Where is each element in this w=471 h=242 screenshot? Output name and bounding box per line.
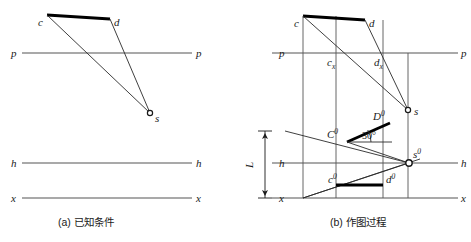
panel-a-label-s: s [155,112,159,124]
panel-b-ray-x-corner-to-s [303,159,420,198]
panel-a-label-p-right: p [195,47,202,59]
panel-b-segment-cd [303,16,365,20]
panel-b-label-dx-sub: x [379,62,384,71]
panel-b-point-s0 [406,160,412,166]
panel-b-caption: (b) 作图过程 [330,214,386,229]
panel-b-label-p-left: p [278,47,285,59]
panel-b-label-angle-30: 30° [362,130,376,141]
panel-b-label-p-right: p [460,47,467,59]
panel-a: c d s p p h h x x [10,15,202,204]
panel-b-ray-C0-to-s0 [347,142,409,163]
panel-a-label-c: c [38,16,43,28]
panel-b-label-L: L [243,162,255,169]
panel-a-label-x-right: x [195,192,201,204]
panel-a-label-h-right: h [196,157,202,169]
panel-b-label-d: d [369,17,375,29]
panel-b-label-c: c [294,17,299,29]
panel-b-label-D0-sup: 0 [381,109,385,118]
panel-b-point-s [405,107,410,112]
panel-a-ray-d-to-s [110,19,150,113]
panel-a-label-d: d [114,16,120,28]
panel-a-ray-c-to-s [47,15,150,113]
panel-b-ray-left-to-s0 [285,131,409,163]
panel-b-ray-d-to-s [365,20,408,110]
panel-b-ray-c-to-s [303,16,408,110]
panel-b-label-x-right: x [460,192,466,204]
panel-b-label-c0-sup: 0 [333,172,337,181]
panel-a-label-h-left: h [11,157,17,169]
panel-a-segment-cd [47,15,110,19]
technical-drawing-figure: c d s p p h h x x [0,0,471,242]
panel-b-label-cx: cx [327,56,336,71]
panel-b-label-h-left: h [279,157,285,169]
panel-a-point-s [147,110,152,115]
panel-b-label-D0-base: D [372,110,381,122]
panel-a-label-p-left: p [10,47,17,59]
panel-b-label-d0: d0 [386,172,396,185]
panel-b-label-cx-sub: x [331,62,336,71]
panel-b-label-s: s [414,105,418,117]
panel-b-label-h-right: h [461,157,467,169]
panel-b-label-C0-sup: 0 [334,127,338,136]
panel-b-label-x-left: x [278,192,284,204]
panel-b-label-s0: s0 [413,147,421,160]
panel-b-label-d0-sup: 0 [392,172,396,181]
panel-b: c d cx dx s C0 D0 30° c0 d0 s0 L p p h h… [243,16,467,204]
panel-b-label-C0: C0 [327,127,338,140]
panel-a-label-x-left: x [10,192,16,204]
panel-b-label-s0-sup: 0 [417,147,421,156]
panel-a-caption: (a) 已知条件 [58,214,114,229]
panel-b-label-dx: dx [374,56,384,71]
